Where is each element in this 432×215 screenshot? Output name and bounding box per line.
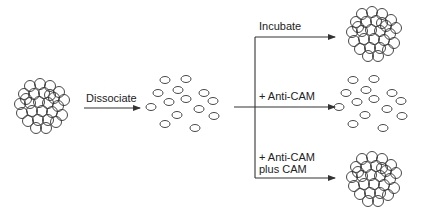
scattered-cells-anti-cam [334,76,407,132]
aggregated-cell-cluster-anti-cam-plus-cam [347,152,402,207]
aggregated-cell-cluster-incubate [347,7,402,62]
anti-cam-plus-cam-label-line2: plus CAM [259,163,307,175]
incubate-label: Incubate [259,20,301,32]
aggregated-cell-cluster-start [15,79,70,134]
dissociate-label: Dissociate [86,92,137,104]
anti-cam-label: + Anti-CAM [259,90,315,102]
anti-cam-plus-cam-label-line1: + Anti-CAM [259,151,315,163]
cell-aggregation-diagram [0,0,432,215]
dissociated-cells [146,76,219,132]
